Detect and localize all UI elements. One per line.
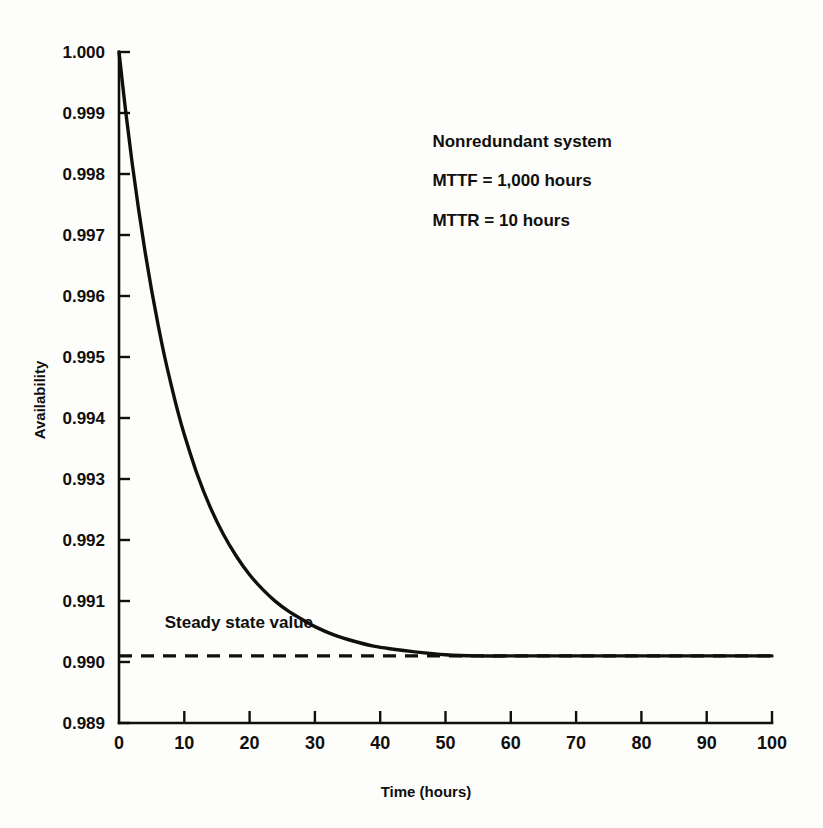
y-tick-label: 0.998 — [62, 165, 105, 184]
x-tick-label: 40 — [370, 733, 390, 753]
y-tick-label: 0.996 — [62, 287, 105, 306]
y-tick-label: 0.990 — [62, 653, 105, 672]
figure-background — [0, 0, 823, 828]
x-tick-label: 30 — [305, 733, 325, 753]
y-axis-title: Availability — [31, 360, 48, 439]
y-tick-label: 0.995 — [62, 348, 105, 367]
availability-chart-figure: 0.9890.9900.9910.9920.9930.9940.9950.996… — [0, 0, 823, 828]
chart-canvas: 0.9890.9900.9910.9920.9930.9940.9950.996… — [0, 0, 823, 828]
y-tick-label: 0.992 — [62, 531, 105, 550]
x-tick-label: 10 — [174, 733, 194, 753]
x-tick-label: 70 — [566, 733, 586, 753]
y-tick-label: 0.991 — [62, 592, 105, 611]
x-tick-label: 80 — [631, 733, 651, 753]
y-tick-label: 0.999 — [62, 104, 105, 123]
x-tick-label: 100 — [757, 733, 787, 753]
y-tick-label: 0.993 — [62, 470, 105, 489]
x-tick-label: 20 — [240, 733, 260, 753]
x-tick-label: 60 — [501, 733, 521, 753]
x-tick-label: 50 — [435, 733, 455, 753]
system-note-line1: Nonredundant system — [432, 132, 611, 151]
system-note-line2: MTTF = 1,000 hours — [432, 171, 591, 190]
y-tick-label: 0.994 — [62, 409, 105, 428]
steady-state-label: Steady state value — [165, 613, 313, 632]
y-tick-label: 0.989 — [62, 714, 105, 733]
y-tick-label: 0.997 — [62, 226, 105, 245]
system-note-line3: MTTR = 10 hours — [432, 211, 569, 230]
y-tick-label: 1.000 — [62, 43, 105, 62]
x-tick-label: 0 — [114, 733, 124, 753]
x-tick-label: 90 — [697, 733, 717, 753]
x-axis-title: Time (hours) — [381, 783, 472, 800]
